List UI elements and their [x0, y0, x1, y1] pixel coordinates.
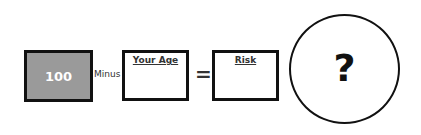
hundred-value: 100: [45, 69, 72, 84]
your-age-label: Your Age: [125, 55, 186, 65]
risk-box[interactable]: Risk: [212, 50, 279, 101]
your-age-box[interactable]: Your Age: [122, 50, 189, 101]
answer-circle: ?: [289, 14, 400, 124]
equals-operator: =: [195, 62, 212, 86]
risk-label: Risk: [215, 55, 276, 65]
hundred-box: 100: [24, 50, 93, 102]
question-mark-icon: ?: [333, 46, 355, 90]
minus-operator: Minus: [94, 69, 120, 79]
